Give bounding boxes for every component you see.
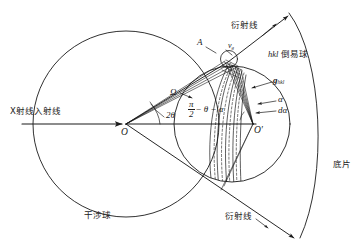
figure-canvas: X射线入射线 干涉球 hkl 倒易球 衍射线 衍射线 底片 A O O′ vg … [0,0,356,248]
reciprocal-sphere-label-cjk: 倒易球 [278,49,308,59]
vector-vg-label: vg [228,42,234,51]
diffracted-ray-lower [126,124,222,189]
angle-dalpha-label: dα [278,106,287,115]
point-O-label: O [121,128,128,138]
leader-alpha [258,101,276,104]
leader-diffraction-bottom [256,219,268,228]
vector-ghkl-label: ghkl [273,76,284,86]
diffraction-line-top-label: 衍射线 [231,21,258,30]
reciprocal-sphere-label: hkl 倒易球 [268,50,308,59]
vector-ghkl-subscript: hkl [278,79,285,85]
reciprocal-sphere-label-hkl: hkl [268,49,278,59]
node-intersection-cluster [222,60,242,78]
angle-alpha-label: α [278,95,283,104]
leader-diffraction-top [262,24,276,36]
diffraction-line-bottom-label: 衍射线 [225,212,252,221]
angle-arc-alpha [240,112,244,120]
node-small-circle [221,51,238,68]
leader-dalpha [256,111,276,113]
angle-two-theta-label: 2θ [166,111,175,120]
angle-omega-label: Ω [170,88,177,97]
point-O-prime-label: O′ [254,126,263,136]
leader-ghkl [252,82,272,88]
cone-arc-family-upper [210,64,246,188]
film-label: 底片 [333,160,351,169]
interference-sphere-label: 干涉球 [84,211,111,220]
vector-vg-subscript: g [232,45,234,50]
point-A-label: A [197,38,203,47]
formula-fraction: π 2 [188,100,195,119]
leader-A [206,47,216,53]
incident-beam-label: X射线入射线 [10,107,61,116]
diagram-vector-graphics [0,0,356,248]
formula-denominator: 2 [188,110,195,119]
film-arc [289,13,318,238]
formula-tail: − θ − α [196,104,224,114]
formula-pi-over-2-minus-theta-minus-alpha: π 2 − θ − α [188,100,224,119]
